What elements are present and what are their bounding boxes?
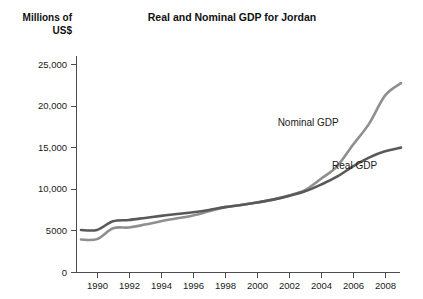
y-axis-title-line1: Millions of [23,12,73,23]
x-tick-label: 1994 [151,280,172,291]
y-tick-label: 5000 [46,225,67,236]
series-label-real-gdp: Real GDP [332,160,377,171]
chart-figure: Real and Nominal GDP for Jordan Millions… [0,0,423,299]
x-tick-label: 1998 [215,280,236,291]
x-tick-label: 2002 [279,280,300,291]
y-tick-label: 20,000 [38,100,67,111]
y-tick-label: 15,000 [38,142,67,153]
series-label-nominal-gdp: Nominal GDP [278,117,339,128]
x-tick-label: 2000 [247,280,268,291]
y-tick-label: 25,000 [38,59,67,70]
x-axis-ticks: 1990199219941996199820002002200420062008 [87,273,396,292]
y-tick-label: 10,000 [38,183,67,194]
x-tick-label: 2006 [343,280,364,291]
chart-title: Real and Nominal GDP for Jordan [148,11,316,23]
x-tick-label: 1996 [183,280,204,291]
x-tick-label: 2004 [311,280,332,291]
series-annotations: Real GDPNominal GDP [278,117,378,171]
gdp-line-chart: Real and Nominal GDP for Jordan Millions… [0,0,423,299]
y-axis-ticks: 0500010,00015,00020,00025,000 [38,59,77,278]
y-axis-title-line2: US$ [53,25,73,36]
x-tick-label: 1990 [87,280,108,291]
x-tick-label: 1992 [119,280,140,291]
y-tick-label: 0 [62,267,67,278]
x-tick-label: 2008 [375,280,396,291]
